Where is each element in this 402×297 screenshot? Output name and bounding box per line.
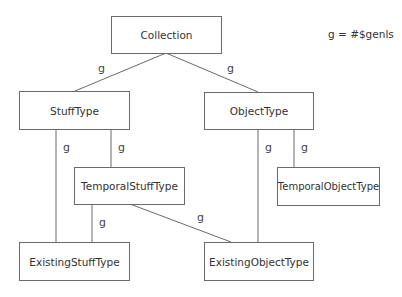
- edge-temporalstufftype-existingobjecttype: [130, 204, 231, 242]
- edge-label: g: [63, 142, 70, 153]
- edge-collection-stufftype: [75, 53, 166, 91]
- edge-label: g: [227, 63, 234, 74]
- edge-label: g: [98, 63, 105, 74]
- node-label: ObjectType: [230, 105, 288, 117]
- node-label: ExistingStuffType: [29, 256, 119, 268]
- node-stufftype: StuffType: [19, 91, 130, 130]
- node-collection: Collection: [111, 16, 222, 54]
- node-label: StuffType: [50, 105, 99, 117]
- edge-label: g: [99, 217, 106, 228]
- node-temporalstufftype: TemporalStuffType: [74, 167, 185, 205]
- edge-label: g: [301, 142, 308, 153]
- genls-hierarchy-diagram: Collection StuffType ObjectType Temporal…: [0, 0, 402, 297]
- node-objecttype: ObjectType: [204, 92, 314, 130]
- node-label: TemporalStuffType: [81, 180, 178, 192]
- node-existingobjecttype: ExistingObjectType: [204, 242, 314, 281]
- node-label: TemporalObjectType: [278, 181, 379, 192]
- node-temporalobjecttype: TemporalObjectType: [277, 167, 380, 206]
- edge-label: g: [118, 142, 125, 153]
- legend-genls: g = #$genls: [328, 28, 394, 40]
- node-label: ExistingObjectType: [209, 256, 309, 268]
- edge-label: g: [265, 142, 272, 153]
- edge-collection-objecttype: [166, 53, 258, 92]
- node-label: Collection: [141, 29, 193, 41]
- node-existingstufftype: ExistingStuffType: [19, 242, 130, 281]
- edge-label: g: [197, 212, 204, 223]
